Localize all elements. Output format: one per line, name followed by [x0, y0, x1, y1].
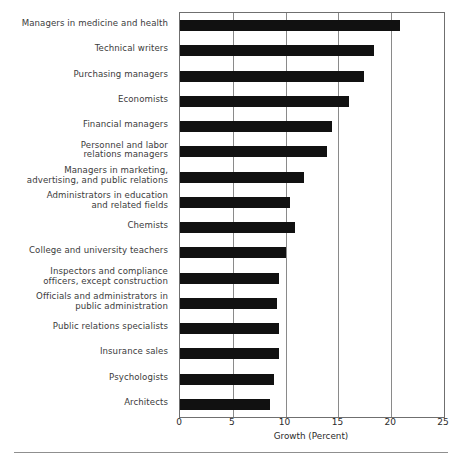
- x-tick-label-15: 15: [332, 417, 343, 427]
- x-tick-label-0: 0: [176, 417, 182, 427]
- bar: [180, 222, 295, 233]
- category-label: College and university teachers: [0, 246, 168, 256]
- x-axis-ticks: 0510152025: [179, 417, 443, 431]
- bar: [180, 146, 327, 157]
- category-label-column: Managers in medicine and healthTechnical…: [0, 12, 174, 416]
- category-label: Public relations specialists: [0, 322, 168, 332]
- category-label: Technical writers: [0, 44, 168, 54]
- bar: [180, 323, 279, 334]
- bar: [180, 96, 349, 107]
- category-label: Insurance sales: [0, 347, 168, 357]
- bar: [180, 197, 290, 208]
- bar: [180, 172, 304, 183]
- bar: [180, 247, 286, 258]
- bar: [180, 298, 277, 309]
- x-tick-label-10: 10: [279, 417, 290, 427]
- footer-divider: [14, 452, 448, 453]
- category-label: Purchasing managers: [0, 70, 168, 80]
- plot-area: [179, 12, 445, 418]
- bar: [180, 71, 364, 82]
- x-tick-label-25: 25: [437, 417, 448, 427]
- category-label: Personnel and labor relations managers: [0, 141, 168, 161]
- x-tick-label-5: 5: [229, 417, 235, 427]
- category-label: Architects: [0, 398, 168, 408]
- bar: [180, 399, 270, 410]
- category-label: Managers in medicine and health: [0, 19, 168, 29]
- x-axis-title: Growth (Percent): [179, 431, 443, 441]
- category-label: Officials and administrators in public a…: [0, 292, 168, 312]
- gridline-20: [391, 13, 392, 417]
- bar: [180, 45, 374, 56]
- x-tick-label-20: 20: [384, 417, 395, 427]
- category-label: Managers in marketing, advertising, and …: [0, 166, 168, 186]
- bar: [180, 374, 274, 385]
- category-label: Administrators in education and related …: [0, 191, 168, 211]
- bar: [180, 121, 332, 132]
- bar: [180, 20, 400, 31]
- category-label: Chemists: [0, 221, 168, 231]
- category-label: Inspectors and compliance officers, exce…: [0, 267, 168, 287]
- category-label: Economists: [0, 95, 168, 105]
- category-label: Psychologists: [0, 373, 168, 383]
- bar: [180, 273, 279, 284]
- bar-chart-figure: Managers in medicine and healthTechnical…: [0, 0, 462, 467]
- category-label: Financial managers: [0, 120, 168, 130]
- bar: [180, 348, 279, 359]
